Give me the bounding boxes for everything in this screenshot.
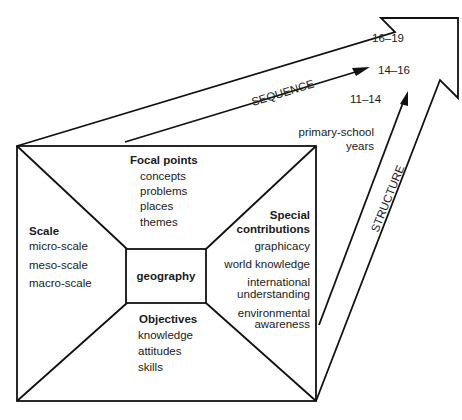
scale-item: meso-scale <box>29 259 88 271</box>
stage-14-16: 14–16 <box>378 64 410 76</box>
structure-label: STRUCTURE <box>369 163 407 234</box>
special-item: world knowledge <box>223 258 310 270</box>
stage-11-14: 11–14 <box>350 93 382 105</box>
focal-item: places <box>140 200 173 212</box>
special-item: international <box>247 276 310 288</box>
focal-item: problems <box>140 185 188 197</box>
objectives-item: skills <box>138 361 163 373</box>
special-item: understanding <box>237 288 310 300</box>
stage-16-19: 16–19 <box>372 32 404 44</box>
focal-points-heading: Focal points <box>130 154 198 166</box>
scale-item: micro-scale <box>29 240 88 252</box>
focal-item: themes <box>140 216 178 228</box>
geography-curriculum-diagram: SEQUENCE STRUCTURE 16–19 14–16 11–14 pri… <box>0 0 462 420</box>
special-item: awareness <box>254 318 310 330</box>
scale-item: macro-scale <box>29 277 92 289</box>
focal-item: concepts <box>140 170 186 182</box>
sequence-label: SEQUENCE <box>250 77 316 107</box>
objectives-heading: Objectives <box>139 313 197 325</box>
special-contributions-heading-2: contributions <box>237 223 310 235</box>
structure-arrowhead-icon <box>400 91 408 106</box>
sequence-arrowhead-icon <box>352 67 370 76</box>
geography-label: geography <box>137 270 196 282</box>
stage-primary-line2: years <box>346 140 374 152</box>
objectives-item: attitudes <box>138 345 182 357</box>
special-contributions-heading-1: Special <box>270 209 310 221</box>
objectives-item: knowledge <box>138 329 193 341</box>
scale-heading: Scale <box>29 225 59 237</box>
stage-primary-line1: primary-school <box>299 126 374 138</box>
diagonal-bottom-left <box>17 303 127 401</box>
special-item: graphicacy <box>254 240 310 252</box>
